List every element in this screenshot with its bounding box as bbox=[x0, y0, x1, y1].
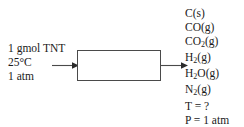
outlet-species-water: H2O(g) bbox=[185, 66, 244, 82]
outlet-stream-labels: C(s) CO(g) CO2(g) H2(g) H2O(g) N2(g) T =… bbox=[185, 6, 244, 127]
diagram-canvas: 1 gmol TNT 25°C 1 atm C(s) CO(g) CO2(g) … bbox=[0, 0, 244, 127]
outlet-temperature-label: T = ? bbox=[185, 99, 244, 113]
species-subscript: 2 bbox=[193, 88, 197, 97]
species-formula: C bbox=[185, 7, 193, 19]
species-subscript: 2 bbox=[193, 72, 197, 81]
species-formula-suffix: O bbox=[197, 67, 205, 79]
species-state: (g) bbox=[206, 67, 219, 79]
species-subscript: 2 bbox=[193, 56, 197, 65]
species-subscript: 2 bbox=[201, 40, 205, 49]
species-state: (s) bbox=[193, 7, 205, 19]
species-formula: CO bbox=[185, 35, 201, 47]
reactor-box bbox=[77, 50, 161, 81]
outlet-pressure-label: P = 1 atm bbox=[185, 113, 244, 127]
outlet-species-carbon-dioxide: CO2(g) bbox=[185, 34, 244, 50]
outlet-species-nitrogen: N2(g) bbox=[185, 82, 244, 98]
species-state: (g) bbox=[197, 51, 210, 63]
inlet-arrow-icon bbox=[52, 61, 79, 70]
inlet-pressure-label: 1 atm bbox=[8, 69, 72, 83]
inlet-feed-label: 1 gmol TNT bbox=[8, 41, 72, 55]
outlet-species-hydrogen: H2(g) bbox=[185, 50, 244, 66]
outlet-species-carbon-monoxide: CO(g) bbox=[185, 20, 244, 34]
species-state: (g) bbox=[197, 83, 210, 95]
species-state: (g) bbox=[201, 21, 214, 33]
species-state: (g) bbox=[205, 35, 218, 47]
outlet-arrow-icon bbox=[160, 61, 188, 70]
outlet-species-carbon: C(s) bbox=[185, 6, 244, 20]
species-formula: CO bbox=[185, 21, 201, 33]
